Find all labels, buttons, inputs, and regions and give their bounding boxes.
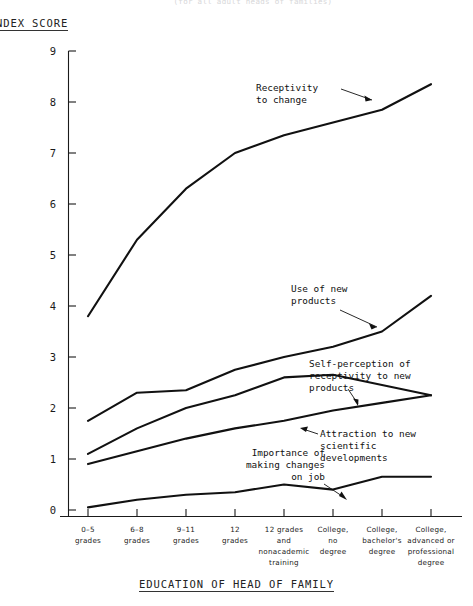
series-line [88, 375, 431, 454]
x-tick-label-line: advanced or [407, 536, 455, 545]
annotation-receptivity-to-change: Receptivity to change [256, 82, 372, 105]
arrowhead [353, 399, 359, 407]
x-tick-label-line: grades [222, 536, 248, 545]
y-tick-label: 0 [50, 504, 56, 516]
series-lines [88, 84, 431, 507]
x-tick-labels: 0–5grades6–8grades9–11grades12grades12 g… [75, 525, 455, 567]
arrowhead [365, 96, 373, 102]
annotation-line: Use of new [291, 283, 348, 294]
annotation-line: Receptivity [256, 82, 318, 93]
x-tick-label-line: grades [124, 536, 150, 545]
y-tick-label: 2 [50, 402, 56, 414]
series-line [88, 84, 431, 316]
y-tick-label: 7 [50, 147, 56, 159]
y-tick-label: 4 [50, 300, 56, 312]
annotation-line: on job [291, 471, 325, 482]
x-tick-label-line: professional [408, 547, 455, 556]
line-chart: 0123456789 0–5grades6–8grades9–11grades1… [0, 0, 473, 606]
annotation-line: developments [320, 452, 388, 463]
x-tick-label-line: no [328, 536, 337, 545]
annotation-use-of-new-products: Use of new products [291, 283, 377, 330]
x-tick-label-line: 9–11 [177, 525, 195, 534]
x-tick-label-line: College, [366, 525, 397, 534]
x-tick-label-line: 12 grades [265, 525, 303, 534]
chart-page: (for all adult heads of families) NDEX S… [0, 0, 473, 606]
y-tick-labels: 0123456789 [50, 45, 56, 516]
x-tick-marks [88, 509, 431, 517]
annotation-line: to change [256, 94, 307, 105]
x-tick-label-line: College, [317, 525, 348, 534]
annotation-line: products [291, 295, 336, 306]
y-tick-label: 3 [50, 351, 56, 363]
arrowhead [369, 324, 377, 330]
x-tick-label-line: grades [173, 536, 199, 545]
x-tick-label-line: College, [415, 525, 446, 534]
annotation-line: products [309, 382, 354, 393]
y-tick-label: 9 [50, 45, 56, 57]
x-tick-label-line: degree [418, 558, 445, 567]
x-tick-label-line: grades [75, 536, 101, 545]
annotation-line: Attraction to new [320, 428, 416, 439]
y-tick-label: 8 [50, 96, 56, 108]
annotation-line: scientific [320, 440, 376, 451]
x-tick-label-line: 12 [230, 525, 240, 534]
annotation-line: receptivity to new [309, 370, 411, 381]
y-tick-label: 1 [50, 453, 56, 465]
arrowhead [339, 492, 347, 501]
x-tick-label-line: bachelor's [362, 536, 401, 545]
x-axis-title-text: EDUCATION OF HEAD OF FAMILY [139, 578, 334, 592]
y-tick-marks [69, 51, 77, 510]
annotation-line: making changes [246, 459, 325, 470]
x-tick-label-line: nonacademic [259, 547, 310, 556]
x-axis-title: EDUCATION OF HEAD OF FAMILY [0, 578, 473, 590]
x-tick-label-line: degree [369, 547, 396, 556]
x-tick-label-line: degree [320, 547, 347, 556]
x-tick-label-line: and [277, 536, 291, 545]
arrowhead [300, 427, 308, 433]
x-tick-label-line: 0–5 [81, 525, 95, 534]
annotation-line: Importance of [252, 447, 325, 458]
x-tick-label-line: training [269, 558, 299, 567]
y-tick-label: 5 [50, 249, 56, 261]
annotation-self-perception: Self-perception of receptivity to new pr… [309, 358, 411, 406]
x-tick-label-line: 6–8 [130, 525, 144, 534]
series-line [88, 477, 431, 508]
annotation-line: Self-perception of [309, 358, 411, 369]
y-tick-label: 6 [50, 198, 56, 210]
